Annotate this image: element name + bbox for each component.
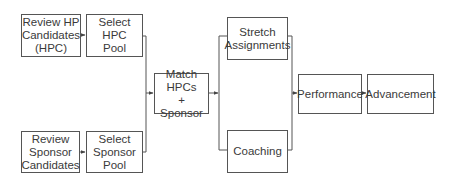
node-coaching: Coaching (227, 130, 288, 173)
node-select-hpc-pool: Select HPC Pool (86, 14, 143, 57)
node-label: Select HPC Pool (88, 16, 141, 55)
node-label: Coaching (233, 145, 282, 158)
node-match-hpcs-sponsor: Match HPCs + Sponsor (154, 73, 209, 114)
node-stretch-assignments: Stretch Assignments (227, 17, 288, 60)
node-label: Advancement (365, 88, 435, 101)
node-label: Review HP Candidates (HPC) (22, 16, 80, 55)
node-select-sponsor-pool: Select Sponsor Pool (86, 131, 143, 173)
node-label: Select Sponsor Pool (93, 133, 136, 172)
node-performance: Performance (298, 74, 362, 114)
node-label: Stretch Assignments (225, 26, 291, 52)
node-review-sponsor-candidates: Review Sponsor Candidates (21, 131, 80, 173)
node-label: Match HPCs + Sponsor (156, 68, 207, 120)
node-label: Review Sponsor Candidates (21, 133, 79, 172)
node-review-hp-candidates: Review HP Candidates (HPC) (21, 14, 81, 57)
node-label: Performance (297, 88, 363, 101)
node-advancement: Advancement (367, 74, 434, 114)
